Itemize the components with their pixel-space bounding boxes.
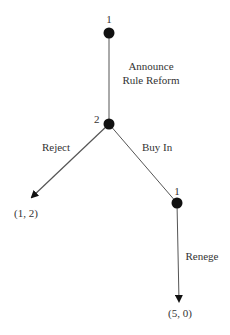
edge-renege (177, 203, 179, 301)
decision-node-2 (104, 119, 115, 130)
decision-node-1-lower (172, 198, 183, 209)
edge-label-rule-reform: Rule Reform (122, 75, 179, 86)
payoff-reject: (1, 2) (14, 208, 38, 219)
edge-label-announce: Announce (128, 61, 173, 72)
player-label-node-1-top: 1 (106, 14, 112, 25)
edge-label-renege: Renege (186, 251, 219, 262)
edge-label-reject: Reject (42, 142, 70, 153)
edge-reject (32, 124, 109, 197)
game-tree-diagram: 1 2 1 Announce Rule Reform Reject Buy In… (0, 0, 230, 335)
player-label-node-2: 2 (94, 114, 100, 125)
edge-buy-in (109, 124, 177, 203)
game-tree-graphics (0, 0, 230, 335)
payoff-renege: (5, 0) (168, 308, 192, 319)
edge-label-buy-in: Buy In (142, 142, 172, 153)
decision-node-1-top (104, 28, 115, 39)
player-label-node-1-lower: 1 (174, 186, 180, 197)
